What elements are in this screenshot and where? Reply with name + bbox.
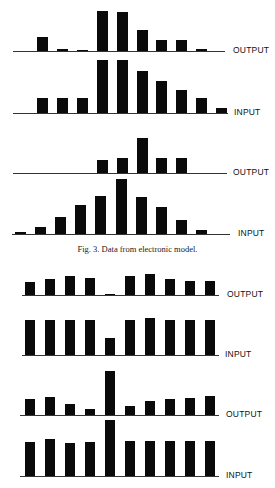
bar	[216, 108, 227, 113]
bar	[145, 441, 155, 476]
bar	[125, 441, 135, 476]
bar	[165, 441, 175, 476]
baseline-axis	[22, 355, 219, 356]
bar	[85, 278, 95, 295]
bar	[185, 398, 195, 415]
series-label-output: OUTPUT	[233, 167, 269, 177]
bar	[185, 441, 195, 476]
bar	[97, 60, 108, 113]
bar	[176, 90, 187, 113]
bar	[145, 274, 155, 295]
bar	[116, 179, 127, 234]
bar	[77, 98, 88, 113]
series-label-input: INPUT	[238, 228, 265, 238]
bar	[25, 282, 35, 295]
bar	[176, 158, 187, 173]
bar	[137, 138, 148, 173]
bar	[77, 50, 88, 51]
series-label-output: OUTPUT	[233, 45, 269, 55]
bar	[156, 81, 167, 113]
bar	[95, 196, 106, 234]
baseline-axis	[12, 234, 230, 235]
series-label-output: OUTPUT	[226, 409, 262, 419]
bar	[57, 49, 68, 51]
bar	[105, 338, 115, 355]
series-label-output: OUTPUT	[227, 289, 263, 299]
bar	[25, 320, 35, 355]
bar	[85, 442, 95, 476]
bar	[57, 98, 68, 113]
bar	[136, 197, 147, 234]
bar	[45, 439, 55, 476]
bar	[97, 160, 108, 173]
bar	[85, 409, 95, 415]
bar	[156, 158, 167, 173]
series-label-input: INPUT	[226, 470, 253, 480]
bar	[45, 397, 55, 415]
bar	[205, 320, 215, 355]
bar	[156, 207, 167, 234]
bar	[117, 158, 128, 173]
bar	[125, 320, 135, 355]
bar	[15, 232, 26, 234]
bar	[37, 37, 48, 51]
bar	[205, 441, 215, 476]
bar	[137, 71, 148, 113]
bar	[145, 318, 155, 355]
bar	[85, 320, 95, 355]
bar	[117, 60, 128, 113]
bar	[35, 227, 46, 234]
baseline-axis	[22, 295, 219, 296]
baseline-axis	[20, 476, 219, 477]
bar	[125, 406, 135, 415]
bar	[25, 442, 35, 476]
baseline-axis	[20, 415, 219, 416]
bar	[65, 276, 75, 295]
bar	[105, 420, 115, 476]
bar	[105, 371, 115, 415]
bar	[165, 279, 175, 295]
bar	[176, 40, 187, 51]
bar	[105, 294, 115, 295]
bar	[156, 40, 167, 51]
bar	[176, 220, 187, 234]
bar	[205, 396, 215, 415]
bar	[165, 320, 175, 355]
bar	[37, 98, 48, 113]
bar	[196, 230, 207, 234]
bar	[75, 205, 86, 234]
series-label-input: INPUT	[234, 107, 261, 117]
bar	[185, 320, 195, 355]
bar	[145, 401, 155, 415]
bar	[205, 281, 215, 295]
figure-caption: Fig. 3. Data from electronic model.	[0, 244, 275, 254]
series-label-input: INPUT	[225, 349, 252, 359]
bar	[65, 320, 75, 355]
bar	[185, 281, 195, 295]
bar	[97, 11, 108, 51]
bar	[165, 399, 175, 415]
bar	[65, 443, 75, 476]
bar	[45, 320, 55, 355]
baseline-axis	[13, 51, 225, 52]
baseline-axis	[13, 173, 227, 174]
bar	[65, 404, 75, 415]
baseline-axis	[13, 113, 228, 114]
bar	[25, 399, 35, 415]
bar	[45, 279, 55, 295]
bar	[196, 98, 207, 113]
bar	[55, 217, 66, 234]
bar	[196, 49, 207, 51]
bar	[125, 276, 135, 295]
bar	[117, 12, 128, 51]
bar	[137, 30, 148, 51]
